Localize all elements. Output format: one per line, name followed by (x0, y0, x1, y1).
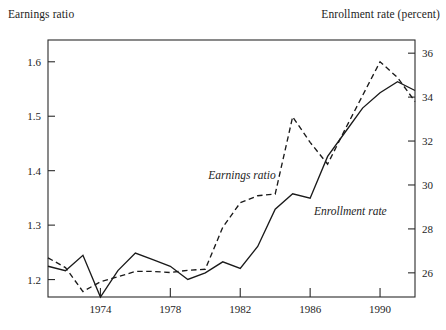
series-annotation: Enrollment rate (313, 205, 387, 217)
y-right-tick-label: 34 (422, 91, 434, 103)
chart-figure: Earnings ratio Enrollment rate (percent)… (0, 0, 446, 330)
y-left-tick-label: 1.6 (27, 56, 41, 68)
x-tick-label: 1986 (299, 303, 322, 315)
tick-labels-group: 1.21.31.41.51.62628303234361974197819821… (27, 47, 433, 315)
series-annotations-group: Earnings ratioEnrollment rate (207, 169, 386, 217)
series-annotation: Earnings ratio (207, 169, 276, 182)
y-right-tick-label: 36 (422, 47, 434, 59)
y-right-tick-label: 26 (422, 267, 434, 279)
y-left-tick-label: 1.2 (27, 274, 41, 286)
y-right-tick-label: 30 (422, 179, 434, 191)
y-left-tick-label: 1.5 (27, 110, 41, 122)
x-tick-label: 1978 (159, 303, 182, 315)
plot-area: 1.21.31.41.51.62628303234361974197819821… (0, 0, 446, 330)
y-left-tick-label: 1.3 (27, 219, 41, 231)
series-line-enrollment-rate (48, 82, 415, 297)
y-right-tick-label: 32 (422, 135, 433, 147)
y-right-tick-label: 28 (422, 223, 434, 235)
y-left-tick-label: 1.4 (27, 165, 41, 177)
x-tick-label: 1974 (89, 303, 112, 315)
x-tick-label: 1990 (369, 303, 392, 315)
x-tick-label: 1982 (229, 303, 251, 315)
